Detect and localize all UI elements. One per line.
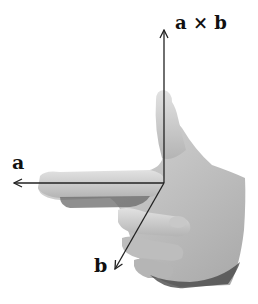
a-label: a — [12, 153, 24, 172]
fingernail — [169, 216, 187, 228]
thumb-shape — [156, 90, 186, 159]
hand-diagram — [0, 0, 258, 304]
hand-image — [38, 90, 245, 288]
b-label: b — [94, 256, 107, 275]
index-finger-shape — [38, 170, 165, 198]
axb-label: a × b — [175, 14, 227, 32]
